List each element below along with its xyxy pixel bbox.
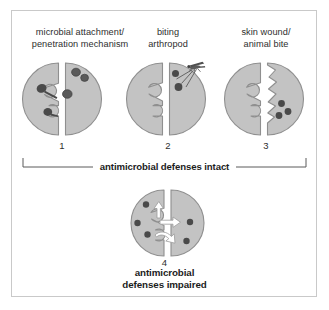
microbe-right-outer-top	[81, 74, 89, 81]
panel-3-number: 3	[224, 140, 308, 151]
panel-3-illustration	[224, 61, 308, 137]
microbe-p4-upper-left	[143, 201, 149, 207]
panel-3-caption-line-2: animal bite	[224, 39, 308, 51]
microbe-p4-mid-right	[187, 219, 193, 225]
panel-1-number: 1	[22, 140, 102, 151]
microbe-p4-lower-right	[183, 238, 189, 244]
split-cell-with-microbes-icon	[22, 61, 102, 137]
panel-4-illustration	[128, 188, 208, 258]
microbe-p4-mid-left	[134, 220, 140, 226]
microbe-right-edge-mid	[63, 90, 73, 99]
microbe-p4-lower-left	[144, 231, 150, 237]
microbe-wound-upper	[278, 100, 285, 107]
cell-left-half	[225, 63, 261, 135]
cell-left-half	[23, 63, 59, 135]
microbe-injected-upper	[172, 70, 179, 77]
microbe-wound-lower	[276, 112, 283, 119]
cell-right-half	[66, 63, 102, 135]
cell-left-half	[127, 63, 163, 135]
arthropod-body-icon	[187, 62, 205, 73]
panel-2-caption-line-1: biting	[126, 27, 210, 39]
microbe-right-edge-top	[72, 68, 81, 76]
microbe-wound-right	[285, 108, 292, 115]
split-cell-torn-edge-icon	[224, 61, 308, 137]
bracket-label-text: antimicrobial defenses intact	[93, 161, 236, 172]
split-cell-with-arthropod-icon	[126, 61, 210, 137]
panel-3-caption-line-1: skin wound/	[224, 27, 308, 39]
microbe-injected-lower	[175, 83, 183, 91]
panel-2-illustration	[126, 61, 210, 137]
arthropod-head	[187, 65, 190, 68]
bracket-label: antimicrobial defenses intact	[22, 160, 307, 173]
cell-right-half-torn	[268, 63, 304, 135]
panel-2-number: 2	[126, 140, 210, 151]
panel-3-caption: skin wound/ animal bite	[224, 27, 308, 50]
panel-4-label-line-2: defenses impaired	[0, 279, 329, 291]
panel-1-illustration	[22, 61, 102, 137]
panel-2-caption: biting arthropod	[126, 27, 210, 50]
bracket-antimicrobial-defenses-intact: antimicrobial defenses intact	[22, 158, 307, 176]
figure-root: microbial attachment/ penetration mechan…	[0, 0, 329, 310]
split-cell-invaded-icon	[128, 188, 208, 258]
panel-2-caption-line-2: arthropod	[126, 39, 210, 51]
panel-4-label: antimicrobial defenses impaired	[0, 267, 329, 292]
panel-4-label-line-1: antimicrobial	[0, 267, 329, 279]
